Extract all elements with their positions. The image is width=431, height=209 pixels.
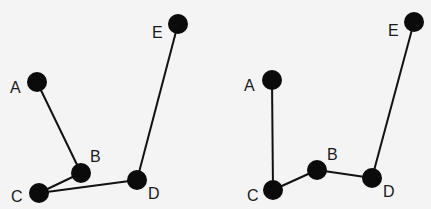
node-label-c: C [11,188,23,205]
edge-d-e [137,24,178,180]
node-label-d: D [383,183,395,200]
node-label-e: E [388,22,399,39]
node-label-b: B [90,148,101,165]
graph-diagram-canvas: ABCDE ABCDE [0,0,431,209]
node-label-a: A [244,77,255,94]
node-label-c: C [247,187,259,204]
node-a [27,72,47,92]
node-e [404,12,424,32]
edge-d-e [372,22,414,178]
node-e [168,14,188,34]
node-b [71,163,91,183]
node-label-e: E [152,24,163,41]
left-graph-diagram: ABCDE [10,14,188,205]
node-a [262,70,282,90]
node-b [307,160,327,180]
node-label-a: A [10,79,21,96]
node-label-d: D [148,185,160,202]
node-d [362,168,382,188]
node-c [263,180,283,200]
edge-a-b [37,82,81,173]
node-label-b: B [327,146,338,163]
node-c [29,183,49,203]
edge-a-c [272,80,273,190]
node-d [127,170,147,190]
right-graph-diagram: ABCDE [244,12,424,204]
